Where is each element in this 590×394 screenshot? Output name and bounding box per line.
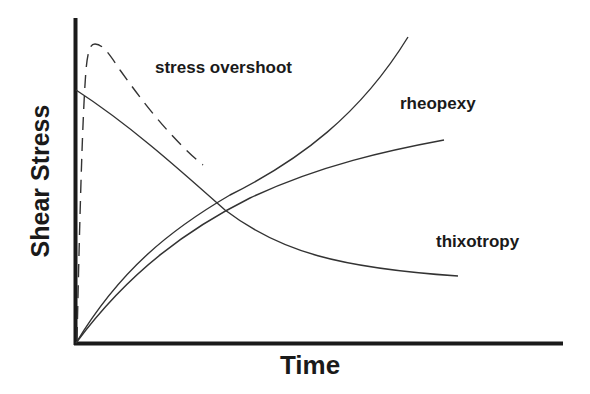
label-rheopexy: rheopexy	[400, 94, 476, 114]
y-axis-title: Shear Stress	[26, 105, 55, 258]
x-axis-title: Time	[0, 350, 590, 381]
label-thixotropy: thixotropy	[436, 232, 519, 252]
curve-rheopexy	[76, 37, 408, 343]
curve-stress-overshoot	[77, 44, 203, 340]
curve-steady-rise	[76, 140, 444, 343]
label-stress-overshoot: stress overshoot	[155, 58, 292, 78]
rheology-diagram	[0, 0, 590, 394]
curve-thixotropy	[76, 90, 458, 276]
